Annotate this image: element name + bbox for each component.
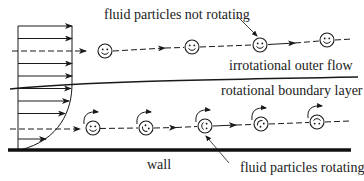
rotating-particle — [136, 112, 156, 138]
rotating-particle-icon — [136, 118, 156, 138]
non-rotating-particle-icon — [98, 44, 112, 58]
inner-particles — [84, 106, 324, 138]
rotating-particle-icon — [251, 114, 271, 134]
inner-region-label: rotational boundary layer — [221, 84, 363, 98]
rotating-particle-icon — [198, 119, 212, 133]
rotating-particle-icon — [86, 121, 100, 135]
rotating-particle — [84, 112, 100, 135]
non-rotating-particle-icon — [320, 33, 334, 47]
rotating-particle — [251, 108, 271, 134]
top-annotation-label: fluid particles not rotating — [104, 8, 250, 22]
non-rotating-particle-icon — [185, 40, 199, 54]
outer-streamline — [12, 39, 352, 51]
non-rotating-particle-icon — [253, 38, 267, 52]
rotating-particle — [196, 110, 212, 133]
rotating-particle-icon — [310, 115, 324, 129]
outer-particles — [98, 33, 334, 58]
bottom-annotation-label: fluid particles rotating — [240, 161, 364, 175]
wall-label: wall — [147, 158, 171, 172]
outer-region-label: irrotational outer flow — [229, 59, 353, 73]
rotating-particle — [308, 106, 324, 129]
